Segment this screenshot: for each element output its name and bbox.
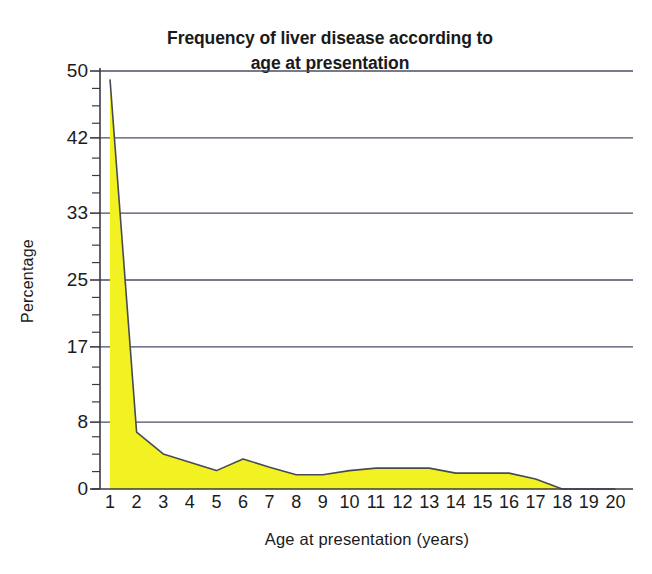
chart-container: Frequency of liver disease according toa… — [0, 0, 652, 574]
area-series-fill — [110, 79, 615, 489]
chart-plot-area — [0, 0, 652, 574]
area-series-line — [110, 79, 615, 489]
y-axis-major-ticks — [90, 71, 100, 489]
gridlines — [99, 71, 633, 422]
